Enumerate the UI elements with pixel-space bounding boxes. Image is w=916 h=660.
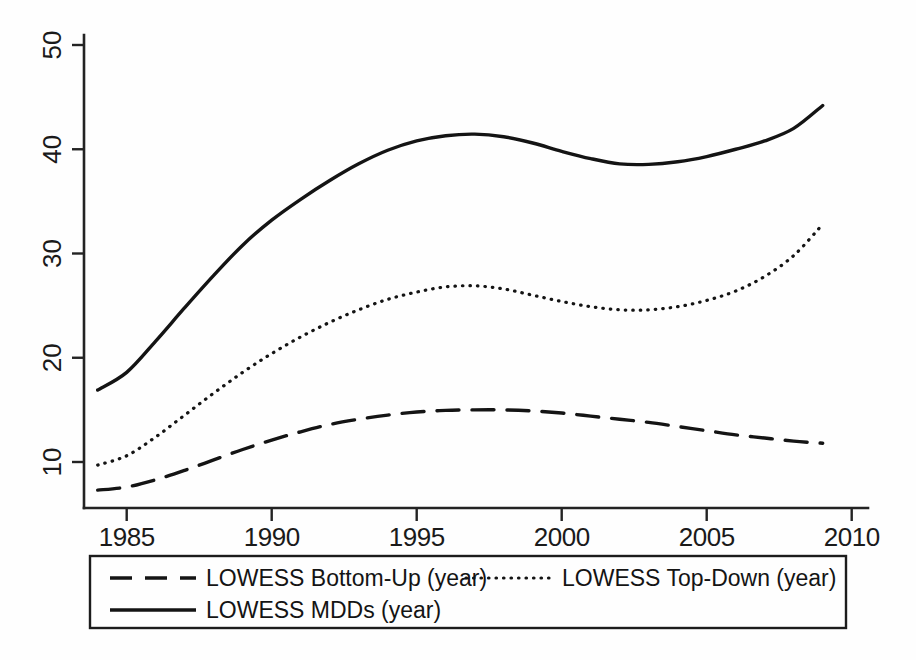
y-tick-label-20: 20	[37, 343, 67, 372]
y-tick-label-40: 40	[37, 135, 67, 164]
legend-label-1: LOWESS Top-Down (year)	[562, 565, 836, 591]
x-tick-label-2000: 2000	[534, 522, 590, 552]
y-tick-label-30: 30	[37, 239, 67, 268]
x-tick-label-1995: 1995	[389, 522, 445, 552]
y-axis-tick-labels: 1020304050	[37, 31, 67, 477]
x-tick-label-2005: 2005	[679, 522, 735, 552]
x-tick-label-2010: 2010	[824, 522, 880, 552]
series-line-0	[98, 410, 823, 490]
y-tick-label-10: 10	[37, 448, 67, 477]
x-axis-ticks	[127, 508, 852, 521]
legend-label-2: LOWESS MDDs (year)	[206, 597, 441, 623]
x-tick-label-1990: 1990	[244, 522, 300, 552]
series-line-1	[98, 224, 823, 465]
x-axis-tick-labels: 198519901995200020052010	[99, 522, 880, 552]
line-chart: 1020304050 198519901995200020052010 LOWE…	[0, 0, 916, 660]
y-axis-ticks	[72, 45, 84, 462]
chart-figure: 1020304050 198519901995200020052010 LOWE…	[0, 0, 916, 660]
legend-entries: LOWESS Bottom-Up (year)LOWESS Top-Down (…	[110, 565, 836, 623]
series-line-2	[98, 105, 823, 390]
x-axis: 198519901995200020052010	[84, 508, 880, 552]
legend-label-0: LOWESS Bottom-Up (year)	[206, 565, 487, 591]
chart-legend: LOWESS Bottom-Up (year)LOWESS Top-Down (…	[90, 556, 846, 628]
series-group	[98, 105, 823, 490]
x-tick-label-1985: 1985	[99, 522, 155, 552]
y-axis: 1020304050	[37, 31, 84, 508]
y-tick-label-50: 50	[37, 31, 67, 60]
